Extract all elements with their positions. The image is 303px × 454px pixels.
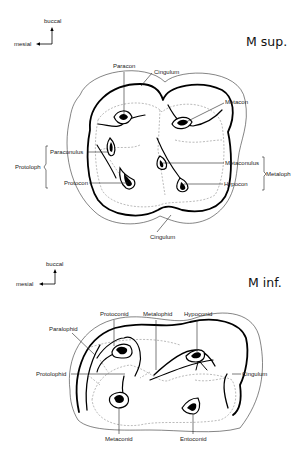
paraconulus-cusp xyxy=(107,138,115,156)
hypoconid-crest xyxy=(154,350,215,375)
lower-buccal-label: buccal xyxy=(46,261,63,267)
lower-title: M inf. xyxy=(248,275,282,290)
lower-mesial-arrowhead-icon xyxy=(39,282,43,285)
hypoconid-spurs xyxy=(196,362,207,370)
label-protocon: Protocon xyxy=(64,180,88,186)
label-protoloph: Protoloph xyxy=(15,164,41,170)
label-paralophid: Paralophid xyxy=(49,326,78,332)
lower-buccal-arrowhead-icon xyxy=(53,269,56,273)
label-cingulum: Cingulum xyxy=(242,371,267,377)
protoconid-cusp xyxy=(112,344,132,358)
protocon-cusp xyxy=(120,168,135,189)
metacon-leader xyxy=(186,103,224,122)
upper-orientation-arrows: buccal mesial xyxy=(14,18,61,47)
protoloph-bracket xyxy=(44,146,48,188)
upper-title: M sup. xyxy=(246,34,287,49)
label-protolophid: Protolophid xyxy=(36,371,66,377)
label-metaconid: Metaconid xyxy=(105,436,133,442)
label-protoconid: Protoconid xyxy=(100,311,129,317)
label-paracon: Paracon xyxy=(113,63,135,69)
entoconid-cusp xyxy=(182,398,200,414)
label-metacon: Metacon xyxy=(225,99,248,105)
label-cingulum-top: Cingulum xyxy=(154,69,179,75)
metacon-cusp xyxy=(172,117,192,128)
label-hypocon: Hypocon xyxy=(224,181,248,187)
label-metaloph: Metaloph xyxy=(266,171,291,177)
upper-buccal-label: buccal xyxy=(44,18,61,24)
mesial-arrowhead-icon xyxy=(36,42,40,45)
upper-groove-distal xyxy=(175,140,222,142)
upper-cingulum-outline xyxy=(67,71,246,224)
hypocon-cusp xyxy=(177,178,188,192)
lower-groove-buccal xyxy=(88,339,180,348)
lower-mesial-crest xyxy=(86,345,100,410)
molar-diagram: buccal mesial M sup. xyxy=(0,0,303,454)
label-cingulum-bottom: Cingulum xyxy=(150,234,175,240)
label-entoconid: Entoconid xyxy=(180,436,207,442)
lower-orientation-arrows: buccal mesial xyxy=(16,261,63,287)
upper-molar-figure: buccal mesial M sup. xyxy=(14,18,291,240)
lower-mesial-label: mesial xyxy=(16,281,33,287)
label-paraconulus: Paraconulus xyxy=(50,149,83,155)
distal-cingulum-crest xyxy=(224,374,228,408)
lower-molar-figure: buccal mesial M inf. xyxy=(16,261,282,442)
label-hypoconid: Hypoconid xyxy=(184,311,212,317)
label-metaconulus: Metaconulus xyxy=(225,160,259,166)
label-metalophid: Metalophid xyxy=(143,311,172,317)
paracon-cusp xyxy=(114,111,132,124)
upper-mesial-label: mesial xyxy=(14,41,31,47)
hypoconid-cusp xyxy=(186,350,205,362)
metaconid-cusp xyxy=(109,392,128,408)
buccal-arrowhead-icon xyxy=(50,27,53,31)
